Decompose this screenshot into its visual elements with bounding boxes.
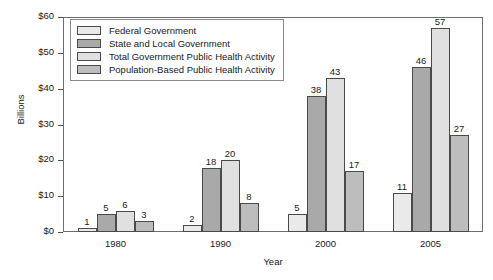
legend-item: Population-Based Public Health Activity (77, 63, 275, 76)
bar-value-label: 3 (141, 209, 146, 220)
y-axis-tick-label: $40 (38, 82, 54, 93)
bar-group: 11465727 (393, 17, 469, 232)
bar: 5 (97, 214, 116, 232)
x-axis-title: Year (63, 256, 483, 267)
y-axis-tick-mark (58, 232, 63, 233)
legend-item-label: Total Government Public Health Activity (109, 51, 275, 62)
bar: 6 (116, 211, 135, 233)
bar-value-label: 46 (416, 55, 427, 66)
bar: 57 (431, 28, 450, 232)
y-axis-tick-label: $30 (38, 118, 54, 129)
y-axis-tick-label: $20 (38, 153, 54, 164)
bar-value-label: 6 (122, 199, 127, 210)
bar-group: 5384317 (288, 17, 364, 232)
bar: 18 (202, 168, 221, 233)
bar-value-label: 1 (84, 216, 89, 227)
bar-chart: Billions $0$10$20$30$40$50$60 1563218208… (0, 0, 493, 280)
bar: 27 (450, 135, 469, 232)
bar: 38 (307, 96, 326, 232)
legend-item: Total Government Public Health Activity (77, 50, 275, 63)
bar: 3 (135, 221, 154, 232)
x-axis-tick-label: 2005 (378, 238, 483, 249)
chart-legend: Federal GovernmentState and Local Govern… (70, 19, 284, 81)
bar-value-label: 11 (397, 181, 407, 192)
legend-item-label: Federal Government (109, 25, 196, 36)
bar-value-label: 43 (330, 66, 341, 77)
y-axis-tick-label: $60 (38, 10, 54, 21)
x-axis-tick-label: 1990 (168, 238, 273, 249)
bar: 20 (221, 160, 240, 232)
legend-item-label: State and Local Government (109, 38, 230, 49)
bar: 43 (326, 78, 345, 232)
legend-swatch-icon (77, 65, 101, 74)
y-axis-tick-label: $50 (38, 46, 54, 57)
bar: 2 (183, 225, 202, 232)
y-axis-tick-label: $10 (38, 189, 54, 200)
bar: 11 (393, 193, 412, 232)
legend-swatch-icon (77, 39, 101, 48)
bar-value-label: 5 (294, 202, 299, 213)
bar-value-label: 17 (349, 159, 360, 170)
bar-value-label: 2 (189, 213, 194, 224)
legend-item-label: Population-Based Public Health Activity (109, 64, 275, 75)
bar-value-label: 38 (311, 84, 322, 95)
bar: 8 (240, 203, 259, 232)
x-axis-tick-label: 1980 (63, 238, 168, 249)
bar-value-label: 20 (225, 148, 236, 159)
y-axis-tick-label: $0 (43, 225, 54, 236)
bar-value-label: 8 (246, 191, 251, 202)
legend-swatch-icon (77, 52, 101, 61)
bar: 46 (412, 67, 431, 232)
legend-item: State and Local Government (77, 37, 275, 50)
bar-value-label: 57 (435, 16, 446, 27)
legend-swatch-icon (77, 26, 101, 35)
x-axis-tick-label: 2000 (273, 238, 378, 249)
bar: 1 (78, 228, 97, 232)
bar-value-label: 27 (454, 123, 465, 134)
bar-value-label: 18 (206, 156, 217, 167)
bar: 17 (345, 171, 364, 232)
bar: 5 (288, 214, 307, 232)
y-axis-title: Billions (15, 60, 26, 160)
bar-value-label: 5 (103, 202, 108, 213)
legend-item: Federal Government (77, 24, 275, 37)
